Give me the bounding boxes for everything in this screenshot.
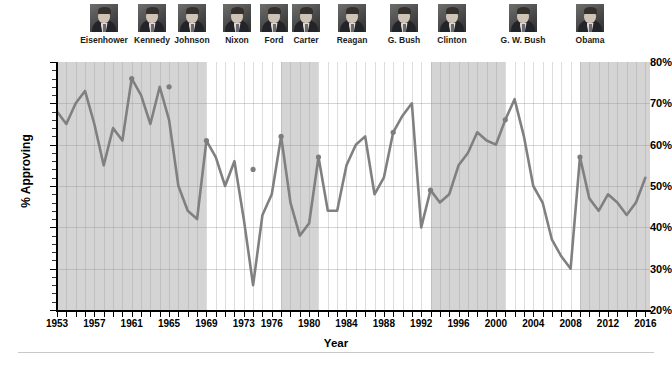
y-axis-line bbox=[56, 62, 58, 311]
x-axis-tick bbox=[543, 312, 544, 317]
approval-data-point bbox=[129, 76, 134, 81]
x-axis-tick bbox=[76, 312, 77, 317]
x-axis-tick bbox=[608, 312, 609, 317]
x-axis-tick bbox=[337, 312, 338, 317]
x-axis-tick-label: 2004 bbox=[522, 318, 544, 329]
x-axis-tick bbox=[57, 312, 58, 317]
x-axis-tick bbox=[188, 312, 189, 317]
y-axis-minor-tick bbox=[52, 302, 56, 303]
x-axis-tick bbox=[290, 312, 291, 317]
y-axis-minor-tick bbox=[52, 236, 56, 237]
y-axis-minor-tick bbox=[52, 293, 56, 294]
x-axis-tick bbox=[627, 312, 628, 317]
y-axis-tick bbox=[50, 103, 56, 104]
x-axis-tick-label: 2012 bbox=[597, 318, 619, 329]
x-axis-tick-label: 1953 bbox=[46, 318, 68, 329]
x-axis-tick bbox=[104, 312, 105, 317]
approval-polyline bbox=[57, 79, 645, 286]
x-axis-tick bbox=[234, 312, 235, 317]
x-axis-tick bbox=[244, 312, 245, 317]
x-axis-tick bbox=[431, 312, 432, 317]
x-axis-tick bbox=[318, 312, 319, 317]
x-axis-tick bbox=[487, 312, 488, 317]
y-axis-tick bbox=[50, 186, 56, 187]
y-axis-tick bbox=[50, 310, 56, 311]
x-axis-tick-label: 1984 bbox=[335, 318, 357, 329]
approval-data-point bbox=[428, 188, 433, 193]
president-portrait-strip: EisenhowerKennedyJohnsonNixonFordCarterR… bbox=[0, 0, 672, 52]
y-axis-minor-tick bbox=[52, 219, 56, 220]
x-axis-tick bbox=[300, 312, 301, 317]
y-axis-tick bbox=[50, 62, 56, 63]
y-axis-minor-tick bbox=[52, 178, 56, 179]
x-axis-tick bbox=[356, 312, 357, 317]
x-axis-tick bbox=[580, 312, 581, 317]
plot-area bbox=[57, 62, 650, 310]
x-axis-tick bbox=[505, 312, 506, 317]
x-axis-tick bbox=[636, 312, 637, 317]
x-axis-tick bbox=[496, 312, 497, 317]
y-axis-minor-tick bbox=[52, 70, 56, 71]
y-axis-minor-tick bbox=[52, 194, 56, 195]
x-axis-tick-label: 1996 bbox=[447, 318, 469, 329]
y-axis-minor-tick bbox=[52, 285, 56, 286]
y-axis-minor-tick bbox=[52, 136, 56, 137]
x-axis-tick bbox=[524, 312, 525, 317]
x-axis-tick bbox=[272, 312, 273, 317]
x-axis-tick-label: 1976 bbox=[261, 318, 283, 329]
x-axis-tick bbox=[328, 312, 329, 317]
y-axis-minor-tick bbox=[52, 161, 56, 162]
x-axis-tick bbox=[122, 312, 123, 317]
x-axis-tick bbox=[459, 312, 460, 317]
x-axis-tick bbox=[552, 312, 553, 317]
x-axis-tick bbox=[346, 312, 347, 317]
x-axis-tick bbox=[132, 312, 133, 317]
y-axis-minor-tick bbox=[52, 211, 56, 212]
chart-area: 80%70%60%50%40%30%20% 195319571961196519… bbox=[0, 52, 672, 342]
x-axis-tick bbox=[197, 312, 198, 317]
x-axis-tick bbox=[393, 312, 394, 317]
y-axis-tick bbox=[50, 145, 56, 146]
approval-data-point bbox=[251, 167, 256, 172]
x-axis-tick-label: 2008 bbox=[559, 318, 581, 329]
x-axis-tick bbox=[468, 312, 469, 317]
y-axis-tick-label: 50% bbox=[628, 181, 672, 192]
x-axis-tick-label: 1969 bbox=[195, 318, 217, 329]
x-axis-tick-label: 1988 bbox=[373, 318, 395, 329]
y-axis-minor-tick bbox=[52, 87, 56, 88]
president-name-label: Obama bbox=[550, 35, 630, 45]
x-axis-tick-label: 1965 bbox=[158, 318, 180, 329]
x-axis-tick-label: 2000 bbox=[485, 318, 507, 329]
x-axis-tick bbox=[225, 312, 226, 317]
x-axis-tick bbox=[412, 312, 413, 317]
x-axis-tick bbox=[216, 312, 217, 317]
y-axis-minor-tick bbox=[52, 252, 56, 253]
x-axis-tick bbox=[113, 312, 114, 317]
x-axis-tick-label: 2016 bbox=[634, 318, 656, 329]
x-axis-tick bbox=[178, 312, 179, 317]
x-axis-tick-label: 1980 bbox=[298, 318, 320, 329]
president-portrait-icon bbox=[338, 4, 366, 32]
x-axis-tick bbox=[421, 312, 422, 317]
x-axis-tick bbox=[515, 312, 516, 317]
x-axis-tick-label: 1992 bbox=[410, 318, 432, 329]
x-axis-tick bbox=[403, 312, 404, 317]
approval-data-point bbox=[204, 138, 209, 143]
y-axis-tick bbox=[50, 269, 56, 270]
x-axis-tick-label: 1973 bbox=[233, 318, 255, 329]
x-axis-tick bbox=[94, 312, 95, 317]
x-axis-tick bbox=[440, 312, 441, 317]
y-axis-tick-label: 80% bbox=[628, 57, 672, 68]
approval-data-markers bbox=[129, 76, 582, 193]
y-axis-minor-tick bbox=[52, 95, 56, 96]
president-obama: Obama bbox=[550, 4, 630, 45]
x-axis-tick bbox=[617, 312, 618, 317]
y-axis-minor-tick bbox=[52, 79, 56, 80]
y-axis-tick-label: 30% bbox=[628, 264, 672, 275]
x-axis-title: Year bbox=[0, 337, 672, 349]
x-axis-tick bbox=[141, 312, 142, 317]
president-clinton: Clinton bbox=[412, 4, 492, 45]
x-axis-tick bbox=[645, 312, 646, 317]
x-axis-tick bbox=[253, 312, 254, 317]
x-axis-tick bbox=[206, 312, 207, 317]
